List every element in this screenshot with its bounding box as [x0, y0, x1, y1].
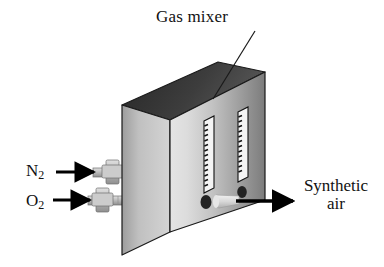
nitrogen-label: N2 [26, 162, 44, 182]
box-left-face [122, 105, 170, 255]
nitrogen-symbol: N [26, 161, 38, 180]
synthetic-air-line-2: air [288, 195, 384, 213]
gas-mixer-label: Gas mixer [156, 8, 228, 26]
flow-tube-right [238, 107, 248, 182]
flow-tube-left [204, 116, 214, 193]
nitrogen-subscript: 2 [38, 168, 44, 182]
oxygen-symbol: O [26, 191, 38, 210]
flow-knob-left[interactable] [201, 195, 212, 209]
oxygen-label: O2 [26, 192, 44, 212]
synthetic-air-label: Synthetic air [288, 177, 384, 213]
oxygen-subscript: 2 [38, 198, 44, 212]
gas-mixer-diagram [0, 0, 384, 267]
gas-mixer-label-text: Gas mixer [156, 7, 228, 26]
synthetic-air-line-1: Synthetic [288, 177, 384, 195]
